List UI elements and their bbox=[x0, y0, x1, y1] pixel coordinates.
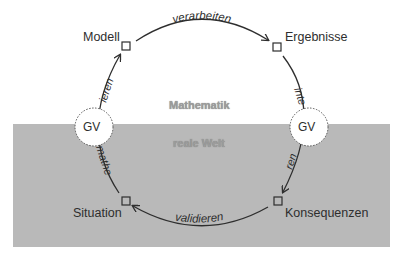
edge-label-interpretieren-upper: inte bbox=[292, 86, 309, 107]
node-label-situation: Situation bbox=[73, 206, 122, 220]
node-square-ergebnisse bbox=[273, 43, 281, 51]
node-square-modell bbox=[122, 42, 130, 50]
node-label-ergebnisse: Ergebnisse bbox=[285, 30, 348, 44]
region-label-mathematik: Mathematik bbox=[169, 99, 230, 111]
edge-label-mathematisieren-lower: mathe bbox=[94, 144, 115, 177]
gv-label-right: GV bbox=[298, 120, 315, 134]
node-label-modell: Modell bbox=[83, 30, 120, 44]
edge-label-validieren: validieren bbox=[175, 210, 225, 224]
gv-label-left: GV bbox=[83, 120, 100, 134]
region-label-reale-welt: reale Welt bbox=[173, 137, 225, 149]
edge-label-mathematisieren-upper: ieren bbox=[96, 77, 115, 104]
arrow-verarbeiten bbox=[136, 19, 268, 41]
node-label-konsequenzen: Konsequenzen bbox=[285, 206, 368, 220]
edge-label-interpretieren-lower: ren bbox=[282, 152, 298, 171]
edge-label-verarbeiten: verarbeiten bbox=[171, 9, 233, 25]
node-square-konsequenzen bbox=[274, 197, 282, 205]
modeling-cycle-diagram: verarbeiten validieren ieren mathe inte … bbox=[0, 0, 397, 258]
node-square-situation bbox=[122, 197, 130, 205]
